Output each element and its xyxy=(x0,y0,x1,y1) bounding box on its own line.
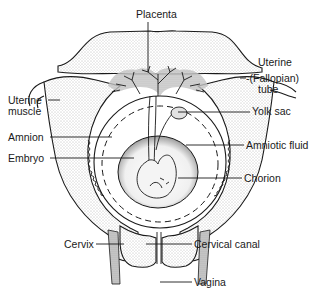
cervix xyxy=(120,226,198,267)
label-amnion: Amnion xyxy=(8,131,44,143)
label-uterine-tube-1: Uterine xyxy=(258,56,292,68)
label-amniotic-fluid: Amniotic fluid xyxy=(246,139,309,151)
label-uterine-tube-3: tube xyxy=(258,83,279,95)
label-uterine-muscle-2: muscle xyxy=(8,105,41,117)
label-chorion: Chorion xyxy=(244,172,281,184)
uterus-embryo-diagram: Placenta Uterine -(Fallopian) tube Uteri… xyxy=(0,0,318,304)
label-cervix: Cervix xyxy=(64,238,95,250)
label-placenta: Placenta xyxy=(136,8,177,20)
label-yolk-sac: Yolk sac xyxy=(252,105,291,117)
uterine-fundus xyxy=(58,31,262,74)
label-embryo: Embryo xyxy=(8,152,44,164)
label-cervical-canal: Cervical canal xyxy=(194,238,260,250)
label-vagina: Vagina xyxy=(194,276,226,288)
